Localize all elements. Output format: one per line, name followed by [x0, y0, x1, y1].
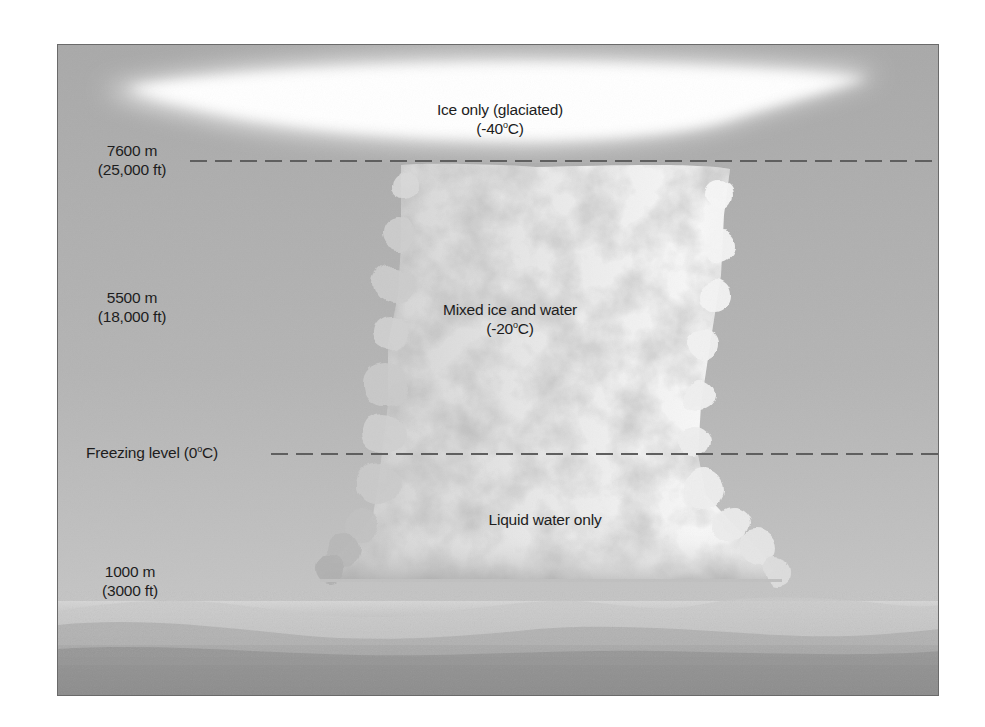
zone-label-mixed: Mixed ice and water (-20oC) [420, 300, 600, 338]
zone-label-liquid: Liquid water only [470, 510, 620, 529]
zone-label-liquid-line1: Liquid water only [470, 510, 620, 529]
altitude-7600-meters: 7600 m [82, 141, 182, 160]
zone-label-mixed-line2: (-20oC) [420, 319, 600, 338]
zone-label-mixed-line1: Mixed ice and water [420, 300, 600, 319]
zone-label-ice-only-line2: (-40oC) [420, 119, 580, 138]
altitude-1000-meters: 1000 m [80, 562, 180, 581]
diagram-canvas: Ice only (glaciated) (-40oC) Mixed ice a… [0, 0, 985, 727]
cloud-illustration [58, 45, 939, 696]
altitude-5500-meters: 5500 m [82, 288, 182, 307]
altitude-1000-feet: (3000 ft) [80, 581, 180, 600]
illustration-frame [57, 44, 939, 696]
altitude-label-1000m: 1000 m (3000 ft) [80, 562, 180, 600]
zone-label-ice-only-line1: Ice only (glaciated) [420, 100, 580, 119]
altitude-label-5500m: 5500 m (18,000 ft) [82, 288, 182, 326]
altitude-7600-feet: (25,000 ft) [82, 160, 182, 179]
freezing-level-label: Freezing level (0oC) [86, 443, 218, 462]
altitude-5500-feet: (18,000 ft) [82, 307, 182, 326]
zone-label-ice-only: Ice only (glaciated) (-40oC) [420, 100, 580, 138]
ground-terrain [58, 597, 939, 696]
altitude-label-7600m: 7600 m (25,000 ft) [82, 141, 182, 179]
